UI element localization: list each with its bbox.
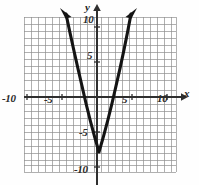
x-tick-label-10: 10 — [157, 93, 167, 104]
y-tick-label-neg10: -10 — [74, 164, 88, 175]
y-tick-label-10: 10 — [83, 14, 93, 25]
y-axis-arrow — [93, 4, 101, 11]
x-tick-label-5: 5 — [122, 94, 127, 105]
y-tick-label-5: 5 — [87, 50, 92, 61]
x-axis-label: x — [184, 88, 190, 99]
y-tick-label-neg5: -5 — [79, 127, 88, 138]
x-tick-label-neg5: -5 — [44, 94, 53, 105]
x-tick-label-neg10: -10 — [2, 93, 16, 104]
graph-figure: -10 -5 5 10 10 5 -5 -10 y x — [0, 0, 199, 185]
coordinate-plane — [0, 0, 199, 185]
y-axis-label: y — [85, 2, 90, 13]
